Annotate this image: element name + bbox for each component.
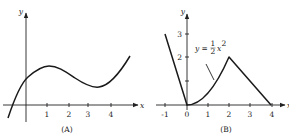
x-tick-label: 3 [86, 110, 91, 119]
x-tick-label: 2 [227, 110, 232, 119]
x-tick-label: 0 [185, 110, 190, 119]
panel-b: -1 0 1 2 3 4 3 2 x y y = 1 2 x 2 (B) [156, 7, 289, 134]
annotation-leader [206, 64, 214, 80]
x-tick-label: 1 [206, 110, 211, 119]
y-tick-label: 3 [177, 30, 182, 39]
svg-text:2: 2 [211, 47, 216, 56]
equation-label: y = 1 2 x 2 [194, 39, 227, 56]
caption-a: (A) [61, 125, 72, 134]
y-axis-label: y [18, 7, 24, 16]
panel-a: 1 2 3 4 x y (A) [3, 7, 145, 134]
x-tick-label: 4 [270, 110, 275, 119]
svg-text:2: 2 [222, 39, 227, 48]
x-tick-label: 4 [109, 110, 114, 119]
x-axis-label: x [287, 101, 289, 110]
svg-text:y =: y = [194, 44, 208, 53]
figure: 1 2 3 4 x y (A) -1 0 1 2 3 4 3 2 [0, 0, 289, 140]
x-tick-label: 1 [45, 110, 50, 119]
x-tick-label: -1 [161, 110, 168, 119]
x-tick-label: 3 [248, 110, 253, 119]
y-axis-label: y [180, 7, 186, 16]
x-axis-label: x [140, 101, 145, 110]
x-tick-label: 2 [67, 110, 72, 119]
caption-b: (B) [220, 125, 231, 134]
y-tick-label: 2 [177, 53, 182, 62]
